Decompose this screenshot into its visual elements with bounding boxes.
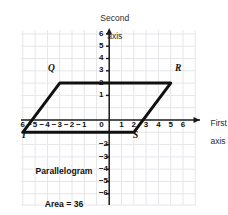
vertex-label-Q: Q — [48, 64, 55, 74]
x-tick-label-6: 6 — [179, 121, 187, 129]
x-tick-label-1: 1 — [118, 121, 126, 129]
x-axis-title-line1: First — [210, 118, 227, 128]
x-axis-title-line2: axis — [210, 136, 225, 146]
x-tick-label-4: 4 — [154, 121, 162, 129]
x-tick-label-3: 3 — [142, 121, 150, 129]
y-tick-label-2: 2 — [97, 79, 105, 87]
vertex-label-R: R — [175, 64, 181, 74]
x-axis-arrowhead — [194, 117, 201, 123]
vertex-label-S: S — [133, 131, 138, 141]
figure-caption: Parallelogram Area = 36 square units — [24, 144, 104, 215]
y-axis-title: Second axis — [83, 5, 137, 50]
x-axis-title: First axis — [201, 110, 228, 155]
y-tick-label-6: 6 — [97, 30, 105, 38]
caption-line-2: Area = 36 — [24, 199, 104, 210]
x-tick-label-2: 2 — [130, 121, 138, 129]
y-tick-label-5: 5 — [97, 42, 105, 50]
y-tick-label-4: 4 — [97, 54, 105, 62]
coordinate-plane-figure: Second axis First axis 6 − 5 − 4 − 3 − 2… — [0, 0, 228, 215]
x-tick-label-0: 0 — [98, 121, 106, 129]
y-tick-label-1: 1 — [97, 91, 105, 99]
caption-line-1: Parallelogram — [24, 166, 104, 177]
y-axis-title-line2: axis — [107, 31, 122, 41]
x-tick-label--1: 1 — [80, 121, 88, 129]
y-axis-title-line1: Second — [100, 13, 129, 23]
x-tick-label-5: 5 — [167, 121, 175, 129]
y-tick-label-3: 3 — [97, 66, 105, 74]
vertex-label-T: T — [21, 131, 27, 141]
